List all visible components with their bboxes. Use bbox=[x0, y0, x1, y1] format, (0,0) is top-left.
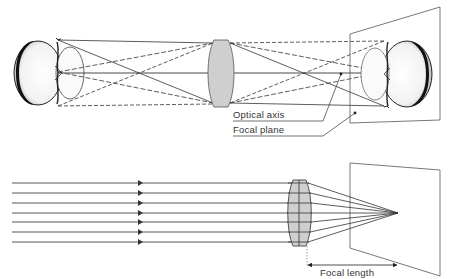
parallel-rays bbox=[12, 183, 293, 242]
bottom-panel bbox=[12, 163, 440, 276]
focal-plane-dot bbox=[354, 112, 357, 115]
bottom-focal-plane bbox=[350, 163, 440, 276]
top-panel bbox=[14, 7, 440, 136]
converging-rays bbox=[308, 183, 398, 242]
optics-diagram bbox=[0, 0, 456, 279]
focal-length-label: Focal length bbox=[320, 267, 374, 278]
optical-axis-dot bbox=[340, 73, 343, 76]
ray-arrow-icons bbox=[138, 180, 143, 245]
optical-axis-label: Optical axis bbox=[233, 109, 285, 120]
object-apple bbox=[14, 38, 84, 105]
top-lens bbox=[208, 40, 234, 107]
focal-plane-label: Focal plane bbox=[233, 124, 284, 135]
image-apple bbox=[361, 41, 432, 108]
